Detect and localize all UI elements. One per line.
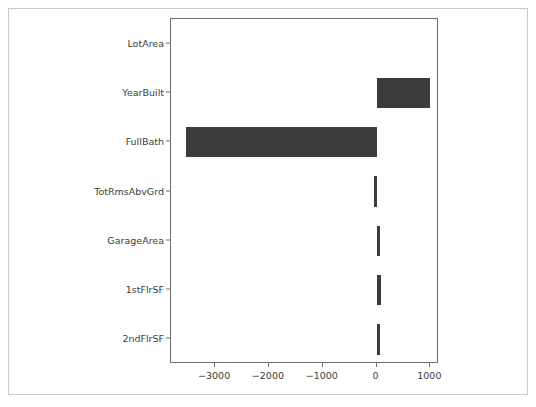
bar-totrmsabvgrd [374,176,377,207]
plot-axes [170,18,438,363]
y-tick-label-1stflrsf: 1stFlrSF [126,284,164,295]
bar-yearbuilt [377,78,431,109]
x-tick-label: −2000 [252,370,284,381]
y-tick-label-lotarea: LotArea [127,37,164,48]
y-tick-label-garagearea: GarageArea [107,234,164,245]
y-tick-label-fullbath: FullBath [126,136,164,147]
y-tick-label-totrmsabvgrd: TotRmsAbvGrd [94,185,164,196]
x-tick-label: 0 [373,370,379,381]
x-tick-mark [214,363,215,367]
figure-canvas: LotAreaYearBuiltFullBathTotRmsAbvGrdGara… [0,0,536,407]
bar-fullbath [186,127,377,158]
bar-2ndflrsf [377,324,381,355]
x-tick-label: 1000 [417,370,441,381]
y-tick-label-yearbuilt: YearBuilt [122,86,164,97]
x-tick-mark [376,363,377,367]
x-tick-label: −3000 [198,370,230,381]
bar-1stflrsf [377,275,382,306]
y-tick-label-2ndflrsf: 2ndFlrSF [122,333,164,344]
x-tick-mark [268,363,269,367]
bar-series [171,19,437,362]
x-tick-mark [322,363,323,367]
x-tick-label: −1000 [306,370,338,381]
x-tick-mark [429,363,430,367]
bar-garagearea [377,226,380,257]
